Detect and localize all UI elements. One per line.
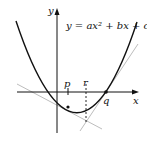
point-p-on-curve <box>66 105 69 108</box>
label-q: q <box>103 95 109 106</box>
parabola-diagram: y x p r q y = ax² + bx + c <box>0 0 147 142</box>
label-r: r <box>83 77 89 88</box>
point-q <box>104 90 108 94</box>
tangent-line-p <box>17 84 102 129</box>
equation-label: y = ax² + bx + c <box>65 20 147 31</box>
y-axis-label: y <box>47 5 54 16</box>
y-axis-arrow-icon <box>55 8 60 15</box>
x-axis-arrow-icon <box>132 90 139 95</box>
label-p: p <box>64 78 71 89</box>
x-axis-label: x <box>133 95 139 106</box>
parabola-curve <box>16 21 137 113</box>
